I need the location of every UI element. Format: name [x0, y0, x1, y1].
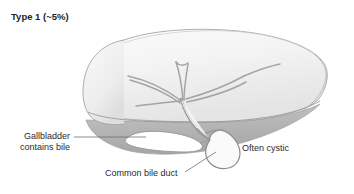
figure-title: Type 1 (~5%): [11, 11, 69, 22]
liver-left-lobe: [83, 40, 124, 125]
label-often-cystic: Often cystic: [242, 143, 289, 154]
label-gallbladder-contains-bile: Gallbladder contains bile: [8, 131, 70, 153]
liver-biliary-illustration: [0, 0, 354, 194]
biliary-anatomy-figure: Type 1 (~5%) Gallbladder contains bile C…: [0, 0, 354, 194]
label-common-bile-duct: Common bile duct: [105, 168, 178, 179]
